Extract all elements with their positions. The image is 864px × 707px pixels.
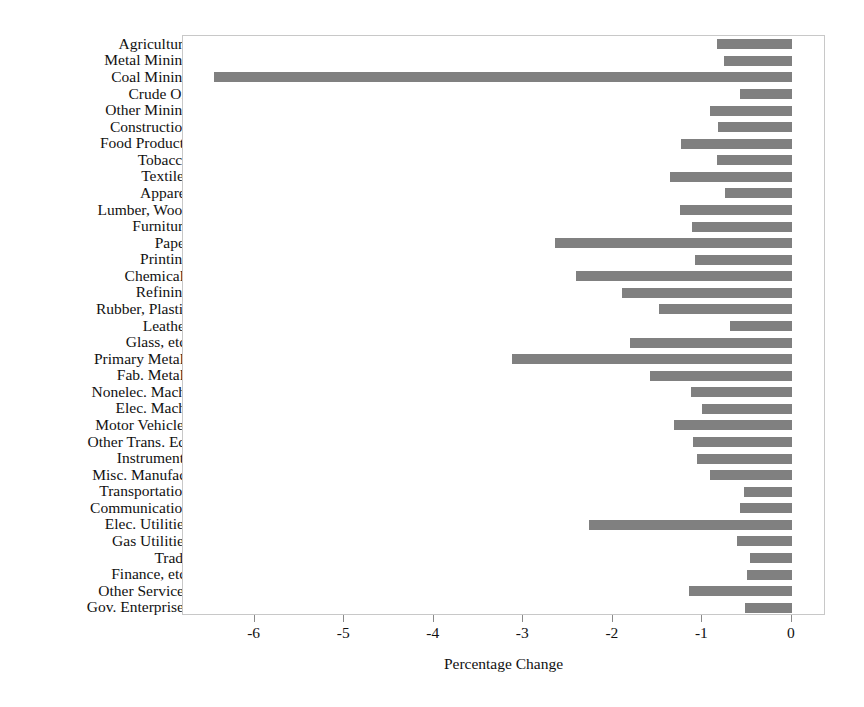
bar — [717, 155, 792, 165]
category-label: Leather — [0, 318, 190, 334]
category-label: Nonelec. Mach. — [0, 384, 190, 400]
bar — [740, 89, 792, 99]
x-axis-tick — [254, 615, 255, 622]
category-label: Crude Oil — [0, 86, 190, 102]
bar — [693, 437, 792, 447]
category-axis-labels: AgricultureMetal MiningCoal MiningCrude … — [0, 35, 190, 615]
bar — [744, 487, 792, 497]
category-label: Misc. Manufac. — [0, 467, 190, 483]
category-label: Other Services — [0, 583, 190, 599]
bar — [750, 553, 792, 563]
plot-area — [182, 35, 825, 615]
bar — [695, 255, 792, 265]
category-label: Primary Metals — [0, 351, 190, 367]
bar — [214, 72, 792, 82]
x-axis-tick-label: -4 — [413, 624, 453, 641]
bar — [691, 387, 792, 397]
bar — [670, 172, 792, 182]
x-axis-title: Percentage Change — [182, 655, 825, 673]
category-label: Instruments — [0, 450, 190, 466]
bar-series — [183, 36, 824, 614]
x-axis-tick — [343, 615, 344, 622]
category-label: Printing — [0, 251, 190, 267]
category-label: Motor Vehicles — [0, 417, 190, 433]
category-label: Fab. Metals — [0, 367, 190, 383]
category-label: Gas Utilities — [0, 533, 190, 549]
category-label: Food Products — [0, 135, 190, 151]
bar — [745, 603, 792, 613]
x-axis-tick — [791, 615, 792, 622]
bar — [650, 371, 791, 381]
category-label: Agriculture — [0, 36, 190, 52]
bar — [622, 288, 792, 298]
x-axis-tick-label: -6 — [234, 624, 274, 641]
category-label: Glass, etc. — [0, 334, 190, 350]
bar — [718, 122, 792, 132]
bar — [576, 271, 792, 281]
bar — [740, 503, 792, 513]
x-axis-tick — [701, 615, 702, 622]
bar — [680, 205, 792, 215]
category-label: Other Trans. Eq. — [0, 434, 190, 450]
x-axis-tick — [522, 615, 523, 622]
category-label: Lumber, Wood — [0, 202, 190, 218]
x-axis-tick-label: -3 — [502, 624, 542, 641]
bar — [710, 106, 792, 116]
category-label: Metal Mining — [0, 52, 190, 68]
bar — [730, 321, 792, 331]
category-label: Elec. Mach. — [0, 400, 190, 416]
bar — [674, 420, 792, 430]
category-label: Construction — [0, 119, 190, 135]
category-label: Other Mining — [0, 102, 190, 118]
x-axis-tick-label: 0 — [771, 624, 811, 641]
bar — [710, 470, 792, 480]
bar — [747, 570, 792, 580]
bar — [630, 338, 792, 348]
category-label: Elec. Utilities — [0, 516, 190, 532]
category-label: Gov. Enterprises — [0, 599, 190, 615]
bar — [689, 586, 792, 596]
bar — [725, 188, 792, 198]
bar — [717, 39, 792, 49]
category-label: Rubber, Plastic — [0, 301, 190, 317]
x-axis-tick — [612, 615, 613, 622]
category-label: Apparel — [0, 185, 190, 201]
category-label: Refining — [0, 284, 190, 300]
category-label: Furniture — [0, 218, 190, 234]
category-label: Communication — [0, 500, 190, 516]
bar — [681, 139, 792, 149]
bar — [589, 520, 792, 530]
bar — [512, 354, 792, 364]
bar — [555, 238, 792, 248]
category-label: Coal Mining — [0, 69, 190, 85]
category-label: Finance, etc. — [0, 566, 190, 582]
category-label: Paper — [0, 235, 190, 251]
category-label: Textiles — [0, 168, 190, 184]
bar — [697, 454, 792, 464]
bar — [702, 404, 792, 414]
bar — [724, 56, 792, 66]
category-label: Transportation — [0, 483, 190, 499]
bar — [659, 304, 792, 314]
x-axis-tick-label: -5 — [323, 624, 363, 641]
bar — [737, 536, 792, 546]
category-label: Tobacco — [0, 152, 190, 168]
bar — [692, 222, 792, 232]
x-axis-tick-label: -2 — [592, 624, 632, 641]
category-label: Trade — [0, 550, 190, 566]
x-axis-tick-label: -1 — [681, 624, 721, 641]
x-axis-tick — [433, 615, 434, 622]
category-label: Chemicals — [0, 268, 190, 284]
chart-page: AgricultureMetal MiningCoal MiningCrude … — [0, 0, 864, 707]
